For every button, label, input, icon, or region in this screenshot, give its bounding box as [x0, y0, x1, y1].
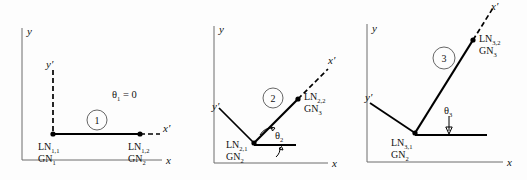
end-node-dot-1: [137, 131, 142, 136]
end-node-dot-3: [470, 37, 475, 42]
start-node-dot-2: [251, 140, 256, 145]
end-node-global-label-1: GN2: [128, 153, 146, 166]
start-node-local-label-3: LN3,1: [391, 137, 412, 150]
start-node-local-label-2: LN2,1: [226, 139, 247, 152]
angle-label-1: θ1 = 0: [112, 89, 137, 102]
element-panel-3: y x y′ x′ 3 θ3 LN3,1 GN: [351, 0, 527, 180]
start-node-global-label-2: GN2: [226, 151, 244, 164]
global-y-label-3: y: [371, 22, 377, 34]
element-panel-1: y x y′ x′ 1 θ1 = 0 LN1,1 GN1 LN1,2 GN2: [0, 0, 176, 180]
element-number-2: 2: [271, 93, 276, 104]
end-node-global-label-2: GN3: [304, 103, 322, 116]
local-x-label-3: x′: [490, 0, 499, 12]
global-x-label-1: x: [165, 154, 171, 166]
end-node-dot-2: [295, 96, 300, 101]
local-y-label-2: y′: [211, 100, 220, 112]
element-number-3: 3: [442, 53, 447, 64]
local-y-axis-3: [370, 103, 415, 133]
local-y-label-3: y′: [364, 91, 373, 103]
start-node-global-label-3: GN2: [391, 149, 409, 162]
end-node-local-label-3: LN3,2: [479, 33, 500, 46]
local-y-label-1: y′: [45, 58, 54, 70]
end-node-global-label-3: GN3: [479, 45, 497, 58]
end-node-local-label-1: LN1,2: [128, 141, 149, 154]
angle-label-2: θ2: [275, 130, 283, 143]
local-y-axis-2: [219, 108, 254, 143]
start-node-dot-3: [412, 130, 417, 135]
angle-label-3: θ3: [444, 105, 452, 118]
element-number-1: 1: [95, 115, 100, 126]
start-node-global-label-1: GN1: [38, 153, 56, 166]
global-x-label-2: x: [331, 157, 337, 169]
angle-arrowhead-lower-2: [279, 147, 283, 151]
global-y-label-1: y: [26, 25, 32, 37]
figure-container: y x y′ x′ 1 θ1 = 0 LN1,1 GN1 LN1,2 GN2: [0, 0, 527, 180]
local-x-label-1: x′: [162, 122, 171, 134]
element-panel-2: y x y′ x′ 2 θ2: [176, 0, 352, 180]
start-node-dot-1: [50, 131, 55, 136]
end-node-local-label-2: LN2,2: [304, 91, 325, 104]
global-y-label-2: y: [218, 23, 224, 35]
local-x-label-2: x′: [327, 54, 336, 66]
global-x-label-3: x: [506, 156, 512, 168]
start-node-local-label-1: LN1,1: [38, 141, 59, 154]
